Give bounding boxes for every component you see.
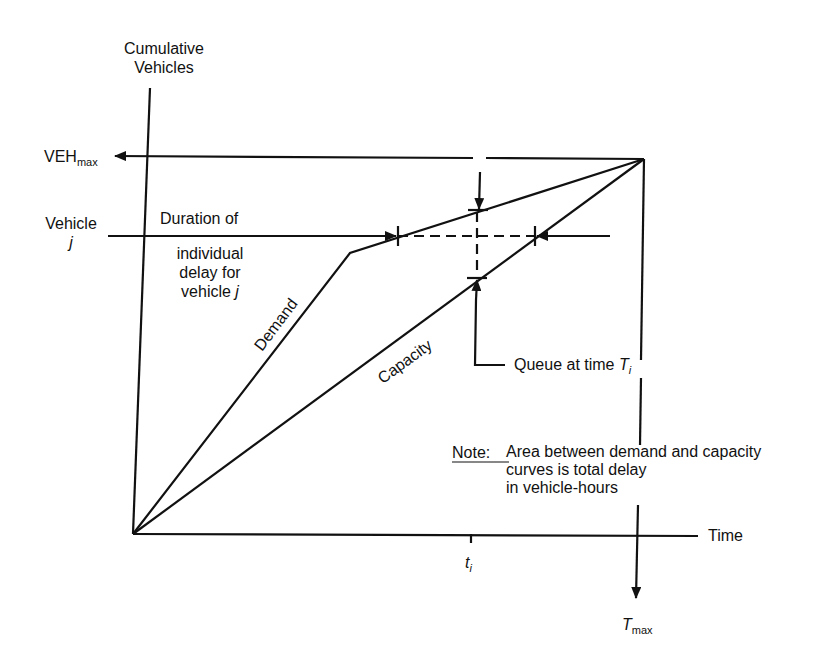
vehmax-arrow — [115, 156, 473, 158]
queue-leader — [475, 300, 505, 365]
queue-label: Queue at time Ti — [514, 355, 631, 376]
duration-label-top: Duration of — [160, 209, 238, 228]
queue-up-arrow — [476, 280, 477, 300]
duration-line2: individual — [160, 244, 260, 263]
y-axis-label-line1: Cumulative — [104, 39, 224, 58]
duration-line4-var: j — [235, 283, 239, 300]
note-line2: curves is total delay — [506, 461, 761, 479]
vehmax-label: VEHmax — [44, 147, 98, 168]
queue-down-arrow — [479, 172, 480, 209]
t-i-sub: i — [469, 562, 471, 574]
duration-line3: delay for — [160, 263, 260, 282]
vehmax-line-right — [486, 158, 644, 159]
y-axis-label: Cumulative Vehicles — [104, 39, 224, 77]
tmax-sub: max — [632, 624, 653, 636]
duration-label-bottom: individual delay for vehicle j — [160, 244, 260, 301]
vehicle-j-line2: j — [36, 233, 106, 252]
vehicle-j-line1: Vehicle — [36, 214, 106, 233]
queue-label-var: T — [619, 356, 629, 373]
tmax-main: T — [622, 616, 632, 633]
y-axis-label-line2: Vehicles — [104, 58, 224, 77]
tmax-arrow — [636, 505, 638, 598]
note-text: Area between demand and capacity curves … — [506, 443, 761, 497]
vehmax-main: VEH — [44, 148, 77, 165]
vehmax-sub: max — [77, 156, 98, 168]
queue-label-text: Queue at time — [514, 356, 619, 373]
tmax-label: Tmax — [622, 615, 653, 636]
queue-label-sub: i — [629, 364, 631, 376]
note-line3: in vehicle-hours — [506, 479, 761, 497]
queue-diagram — [0, 0, 840, 661]
vehicle-j-label: Vehicle j — [36, 214, 106, 252]
x-axis-label: Time — [708, 526, 743, 545]
tmax-line-upper — [641, 159, 644, 360]
duration-line4-text: vehicle — [181, 283, 235, 300]
note-line1: Area between demand and capacity — [506, 443, 761, 461]
y-axis — [133, 88, 150, 534]
t-i-label: ti — [465, 553, 472, 574]
note-prefix: Note: — [452, 443, 490, 462]
x-axis — [133, 534, 698, 536]
tmax-line-mid — [640, 378, 641, 445]
